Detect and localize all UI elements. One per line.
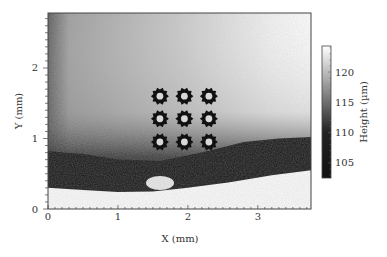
gear-center	[205, 115, 212, 122]
gear-center	[181, 139, 188, 146]
y-tick-label: 1	[32, 133, 38, 144]
gear-center	[157, 93, 164, 100]
gear-center	[181, 93, 188, 100]
x-tick-label: 2	[185, 211, 191, 222]
x-tick-label: 3	[255, 211, 261, 222]
figure: 0123 012 X (mm) Y (mm) 105110115120 Heig…	[0, 0, 387, 257]
gear-array	[151, 88, 218, 151]
y-tick-label: 0	[32, 204, 38, 215]
surface-noise	[48, 13, 311, 209]
colorbar-tick-label: 110	[335, 127, 354, 138]
gear-center	[157, 139, 164, 146]
x-tick-label: 1	[115, 211, 121, 222]
heatmap-plot-area	[48, 13, 311, 209]
colorbar-ticks: 105110115120	[328, 48, 354, 175]
gear-center	[205, 93, 212, 100]
colorbar-tick-label: 115	[335, 97, 354, 108]
y-axis: 012	[32, 19, 48, 215]
y-axis-label: Y (mm)	[13, 93, 24, 131]
colorbar-tick-label: 105	[335, 157, 354, 168]
colorbar-tick-label: 120	[335, 67, 354, 78]
x-axis-label: X (mm)	[161, 233, 198, 244]
colorbar-label: Height (µm)	[358, 81, 369, 143]
gear-center	[205, 139, 212, 146]
colorbar: 105110115120 Height (µm)	[322, 46, 369, 178]
gear-center	[181, 115, 188, 122]
y-tick-label: 2	[32, 62, 38, 73]
gear-center	[157, 115, 164, 122]
x-tick-label: 0	[45, 211, 51, 222]
